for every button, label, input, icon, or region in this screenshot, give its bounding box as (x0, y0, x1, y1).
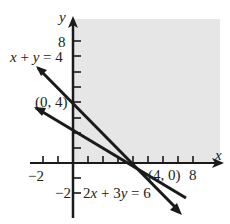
y-tick-label-neg2: −2 (55, 185, 71, 201)
x-tick-label-8: 8 (189, 167, 197, 183)
point-label-4-0: (4, 0) (148, 167, 181, 184)
y-tick-label-8: 8 (58, 34, 66, 50)
equation-label-2: 2x + 3y = 6 (83, 185, 151, 201)
equation-label-1: x + y = 4 (9, 49, 63, 65)
x-tick-label-neg2: −2 (28, 168, 44, 184)
graph: y x 8 x + y = 4 (0, 4) −2 (4, 0) 8 −2 2x… (0, 0, 230, 224)
point-label-0-4: (0, 4) (35, 94, 68, 111)
y-axis-label: y (57, 9, 66, 25)
x-axis-label: x (214, 147, 222, 163)
shaded-region (74, 19, 220, 163)
